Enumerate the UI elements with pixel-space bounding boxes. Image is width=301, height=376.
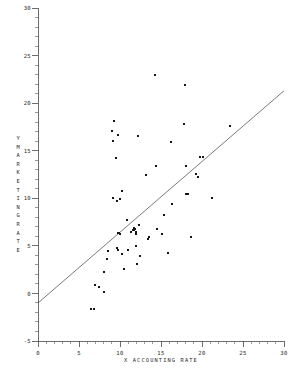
data-point (135, 231, 137, 233)
data-point (202, 156, 204, 158)
x-tick-label: 0 (36, 350, 40, 356)
y-tick-label: 10 (24, 195, 31, 201)
data-point (130, 231, 132, 233)
x-tick-label: 30 (280, 350, 287, 356)
data-point (93, 308, 95, 310)
y-axis-title-char: T (16, 187, 20, 193)
data-point (111, 130, 113, 132)
fit-line-segment (38, 91, 284, 303)
data-point (117, 249, 119, 251)
y-axis-title: YMARKETINGRATE (16, 135, 20, 253)
data-point (112, 140, 114, 142)
data-point (170, 141, 172, 143)
data-point (197, 176, 199, 178)
y-tick-label: 20 (24, 100, 31, 106)
data-point (148, 236, 150, 238)
data-point (154, 74, 156, 76)
data-point (112, 197, 114, 199)
y-tick-label: 5 (27, 243, 31, 249)
x-tick-label: 10 (116, 350, 123, 356)
y-axis-title-char: Y (16, 135, 20, 141)
data-point (195, 173, 197, 175)
data-point (156, 228, 158, 230)
data-point (121, 190, 123, 192)
y-axis-group: -5051015202530 (24, 5, 38, 344)
data-point (135, 245, 137, 247)
data-point (98, 286, 100, 288)
data-point (136, 263, 138, 265)
data-point (94, 284, 96, 286)
data-point (133, 227, 135, 229)
x-axis-title: X ACCOUNTING RATE (124, 357, 198, 363)
x-tick-label: 15 (157, 350, 164, 356)
data-point (135, 233, 137, 235)
data-point (103, 291, 105, 293)
data-point (145, 174, 147, 176)
data-point (116, 200, 118, 202)
data-point (190, 236, 192, 238)
data-point (167, 252, 169, 254)
data-point (137, 135, 139, 137)
data-point (119, 198, 121, 200)
data-point (107, 250, 109, 252)
data-point (147, 238, 149, 240)
data-point (119, 233, 121, 235)
data-point (113, 120, 115, 122)
x-axis-group: 051015202530 (36, 341, 288, 356)
y-axis-title-char: R (16, 161, 20, 167)
data-point (199, 156, 201, 158)
data-point (138, 224, 140, 226)
data-point (103, 271, 105, 273)
y-axis-title-char: M (16, 144, 20, 150)
y-axis-title-char: E (16, 178, 19, 184)
y-axis-title-char: A (16, 152, 20, 158)
x-tick-label: 5 (77, 350, 81, 356)
data-point (229, 125, 231, 127)
y-axis-title-char: T (16, 238, 20, 244)
data-point (155, 165, 157, 167)
data-point (187, 193, 189, 195)
data-point (139, 255, 141, 257)
regression-line (38, 91, 284, 303)
y-axis-title-char: N (16, 204, 19, 210)
data-point (183, 123, 185, 125)
data-point (106, 258, 108, 260)
y-axis-title-char: I (16, 195, 19, 201)
y-axis-title-char: R (16, 221, 20, 227)
y-axis-title-char: E (16, 247, 19, 253)
y-tick-label: 15 (24, 148, 31, 154)
data-point (126, 219, 128, 221)
data-point (171, 203, 173, 205)
y-axis-major-ticks (32, 8, 38, 341)
data-point (211, 197, 213, 199)
y-axis-title-char: G (16, 212, 19, 218)
data-point (117, 134, 119, 136)
data-points (90, 74, 231, 310)
y-tick-label: 25 (24, 53, 31, 59)
data-point (163, 214, 165, 216)
x-axis-tick-labels: 051015202530 (36, 350, 288, 356)
y-axis-title-char: K (16, 169, 20, 175)
y-axis-title-char: A (16, 230, 20, 236)
data-point (185, 165, 187, 167)
plot-canvas: -5051015202530 051015202530 X ACCOUNTING… (0, 0, 301, 376)
y-tick-label: 30 (24, 5, 31, 11)
data-point (184, 84, 186, 86)
data-point (90, 308, 92, 310)
data-point (161, 233, 163, 235)
data-point (116, 247, 118, 249)
scatter-plot-figure: -5051015202530 051015202530 X ACCOUNTING… (0, 0, 301, 376)
data-point (118, 232, 120, 234)
data-point (127, 249, 129, 251)
data-point (115, 157, 117, 159)
y-tick-label: 0 (27, 291, 31, 297)
y-axis-minor-ticks (35, 18, 38, 332)
y-axis-tick-labels: -5051015202530 (24, 5, 31, 344)
x-tick-label: 20 (198, 350, 205, 356)
x-tick-label: 25 (239, 350, 246, 356)
y-tick-label: -5 (24, 338, 31, 344)
data-point (123, 268, 125, 270)
x-axis-major-ticks (38, 341, 284, 347)
data-point (121, 253, 123, 255)
